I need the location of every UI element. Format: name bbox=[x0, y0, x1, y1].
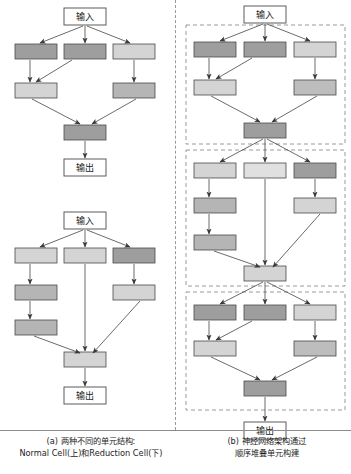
reduction-cell-input-label: 输入 bbox=[76, 215, 94, 226]
op-box-r1 bbox=[15, 248, 57, 263]
op-box-r7 bbox=[64, 352, 106, 367]
figure-bottom-rule bbox=[0, 430, 351, 431]
op-box-n6 bbox=[64, 125, 106, 140]
op-box-b3-5 bbox=[294, 341, 336, 356]
op-box-b3-1 bbox=[194, 305, 236, 320]
panel-divider bbox=[175, 0, 176, 430]
reduction-cell-group: 输入 输出 bbox=[15, 212, 155, 404]
network-input-node: 输入 bbox=[244, 6, 286, 23]
caption-b-line-2: 顺序堆叠单元构建 bbox=[182, 448, 351, 460]
op-box-b2-6 bbox=[194, 235, 236, 250]
reduction-cell-input-node: 输入 bbox=[64, 212, 106, 229]
caption-panel-a: (a) 两种不同的单元结构: Normal Cell(上)和Reduction … bbox=[0, 436, 182, 459]
figure-container: 输入 输出 bbox=[0, 0, 351, 474]
op-box-b1-6 bbox=[244, 123, 286, 138]
op-box-n2 bbox=[64, 44, 106, 59]
caption-panel-b: (b) 神经网络架构通过 顺序堆叠单元构建 bbox=[182, 436, 351, 459]
op-box-b1-1 bbox=[194, 42, 236, 57]
op-box-b3-3 bbox=[294, 305, 336, 320]
op-box-b2-3 bbox=[294, 163, 336, 178]
stacked-network-group: 输入 bbox=[194, 6, 336, 439]
normal-cell-output-node: 输出 bbox=[64, 159, 106, 176]
op-box-n5 bbox=[113, 83, 155, 98]
op-box-b2-5 bbox=[294, 198, 336, 213]
op-box-b3-6 bbox=[244, 381, 286, 396]
normal-cell-input-label: 输入 bbox=[76, 11, 94, 22]
reduction-cell-output-label: 输出 bbox=[76, 390, 94, 401]
op-box-r5 bbox=[113, 285, 155, 300]
op-box-b1-4 bbox=[194, 80, 236, 95]
caption-b-line-1: (b) 神经网络架构通过 bbox=[182, 436, 351, 448]
normal-cell-input-node: 输入 bbox=[64, 8, 106, 25]
op-box-b2-1 bbox=[194, 163, 236, 178]
op-box-b1-3 bbox=[294, 42, 336, 57]
caption-a-line-2: Normal Cell(上)和Reduction Cell(下) bbox=[0, 448, 182, 460]
op-box-b2-7 bbox=[244, 266, 286, 281]
op-box-r3 bbox=[113, 248, 155, 263]
normal-cell-group: 输入 输出 bbox=[15, 8, 155, 176]
op-box-n4 bbox=[15, 83, 57, 98]
op-box-b3-4 bbox=[194, 341, 236, 356]
caption-a-line-1: (a) 两种不同的单元结构: bbox=[0, 436, 182, 448]
reduction-cell-output-node: 输出 bbox=[64, 387, 106, 404]
normal-cell-output-label: 输出 bbox=[76, 162, 94, 173]
op-box-b2-4 bbox=[194, 198, 236, 213]
op-box-b1-5 bbox=[294, 80, 336, 95]
op-box-b1-2 bbox=[244, 42, 286, 57]
stack-cell-1-edges bbox=[209, 24, 317, 122]
stack-cell-3-edges bbox=[209, 282, 317, 380]
op-box-r4 bbox=[15, 285, 57, 300]
op-box-n1 bbox=[15, 44, 57, 59]
op-box-r2 bbox=[64, 248, 106, 263]
op-box-b3-2 bbox=[244, 305, 286, 320]
op-box-n3 bbox=[113, 44, 155, 59]
network-input-label: 输入 bbox=[256, 9, 274, 20]
op-box-b2-2 bbox=[244, 163, 286, 178]
op-box-r6 bbox=[15, 320, 57, 335]
